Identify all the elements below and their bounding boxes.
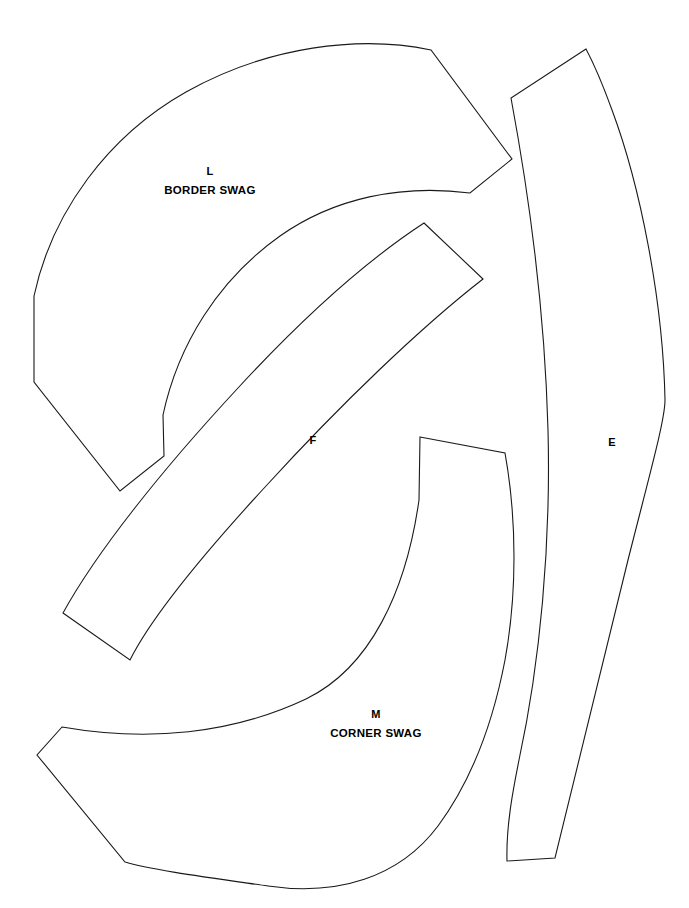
- piece-f-letter-label: F: [309, 434, 316, 446]
- pattern-drawing-canvas: L BORDER SWAG F M CORNER SWAG E: [0, 0, 689, 908]
- piece-e-letter-label: E: [608, 436, 616, 448]
- piece-l-name-label: BORDER SWAG: [164, 184, 255, 196]
- pattern-sheet: L BORDER SWAG F M CORNER SWAG E: [0, 0, 689, 908]
- piece-m-name-label: CORNER SWAG: [330, 727, 421, 739]
- piece-m-letter-label: M: [371, 708, 380, 720]
- piece-l-letter-label: L: [206, 165, 213, 177]
